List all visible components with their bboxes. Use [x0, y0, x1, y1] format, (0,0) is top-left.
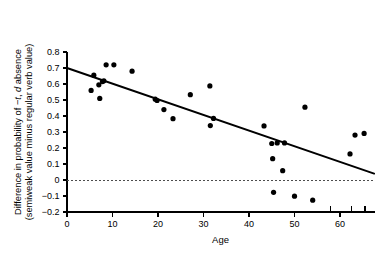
data-point: [101, 78, 106, 83]
data-point: [91, 73, 96, 78]
fit-line: [67, 68, 374, 174]
data-point: [282, 140, 287, 145]
y-tick-label: −0.1: [42, 191, 60, 201]
x-tick-label: 50: [289, 219, 299, 229]
data-point: [154, 98, 159, 103]
y-tick-label: 0: [54, 175, 59, 185]
data-point: [347, 151, 352, 156]
x-tick-label: 10: [107, 219, 117, 229]
data-point: [269, 141, 274, 146]
data-point: [280, 168, 285, 173]
x-tick-label: 0: [64, 219, 69, 229]
x-tick-label: 30: [198, 219, 208, 229]
x-tick-label: 20: [153, 219, 163, 229]
y-tick-label: 0.8: [47, 47, 60, 57]
data-point: [207, 83, 212, 88]
figure-container: −0.2−0.100.10.20.30.40.50.60.70.8 010203…: [0, 0, 378, 258]
data-point: [211, 116, 216, 121]
data-point: [271, 190, 276, 195]
data-point: [170, 116, 175, 121]
data-point: [352, 132, 357, 137]
y-tick-label: 0.4: [47, 111, 60, 121]
scatter-plot: −0.2−0.100.10.20.30.40.50.60.70.8 010203…: [0, 0, 378, 258]
regression-fit-line: [67, 68, 374, 174]
y-tick-label: 0.6: [47, 79, 60, 89]
data-point: [188, 92, 193, 97]
data-point: [104, 62, 109, 67]
y-tick-label: 0.7: [47, 63, 60, 73]
data-point: [261, 123, 266, 128]
data-point: [270, 156, 275, 161]
data-point: [161, 107, 166, 112]
data-point: [129, 69, 134, 74]
y-axis-title-line1: Difference in probability of −t, d absen…: [13, 49, 23, 215]
x-axis-title: Age: [212, 234, 229, 245]
x-tick-label: 60: [335, 219, 345, 229]
y-tick-label: 0.3: [47, 127, 60, 137]
y-axis-ticks: −0.2−0.100.10.20.30.40.50.60.70.8: [42, 47, 67, 217]
data-point: [89, 88, 94, 93]
x-tick-label: 40: [244, 219, 254, 229]
data-point: [302, 105, 307, 110]
data-point: [275, 140, 280, 145]
y-tick-label: 0.1: [47, 159, 60, 169]
y-axis-title-line2: (semiweak value minus regular verb value…: [24, 44, 34, 221]
y-tick-label: 0.2: [47, 143, 60, 153]
data-point: [310, 198, 315, 203]
data-point: [292, 194, 297, 199]
y-tick-label: 0.5: [47, 95, 60, 105]
data-point: [97, 96, 102, 101]
data-point: [208, 123, 213, 128]
x-axis-ticks: 0102030405060: [64, 206, 365, 229]
y-tick-label: −0.2: [42, 207, 60, 217]
data-point: [111, 62, 116, 67]
data-points-group: [89, 62, 367, 203]
axes-group: [67, 52, 375, 212]
data-point: [362, 131, 367, 136]
y-axis-title: Difference in probability of −t, d absen…: [13, 44, 34, 221]
